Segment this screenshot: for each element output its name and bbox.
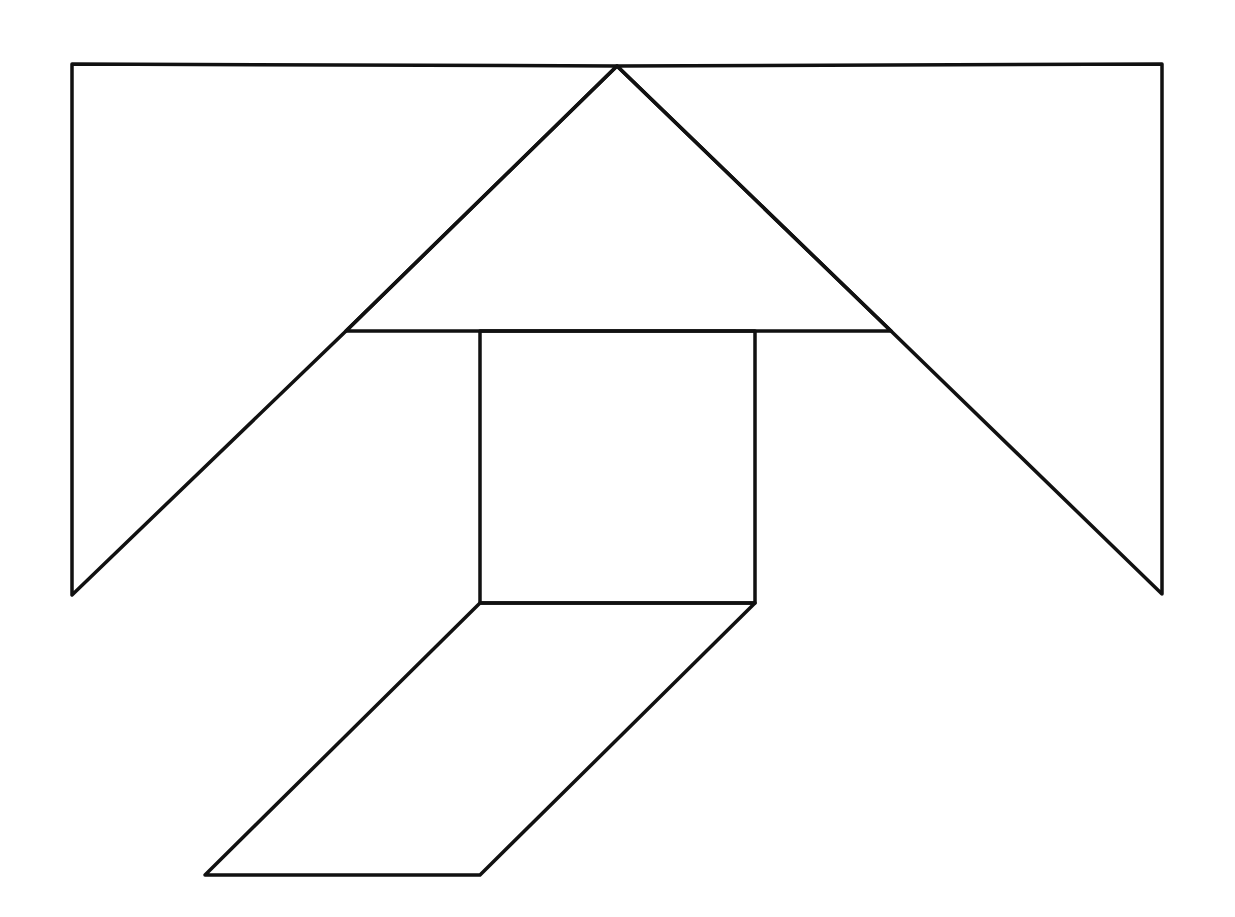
background bbox=[0, 0, 1235, 917]
diagram-canvas bbox=[0, 0, 1235, 917]
tangram-diagram bbox=[0, 0, 1235, 917]
